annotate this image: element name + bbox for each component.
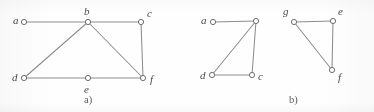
panel-caption-0: a) (84, 95, 92, 106)
graph-vertex-d (21, 75, 26, 80)
graph-edge-g2-f2 (294, 22, 332, 70)
vertex-label-a2: a (201, 15, 207, 26)
graph-vertex-g2 (291, 19, 296, 24)
vertex-label-f: f (150, 74, 153, 85)
graph-edge-c-f (141, 22, 143, 78)
graph-figure-canvas (0, 0, 374, 112)
graph-vertex-e (85, 75, 90, 80)
graph-vertex-b (85, 19, 90, 24)
vertex-label-b: b (84, 6, 90, 17)
vertex-label-e2: e (338, 6, 343, 17)
graph-edge-g2-e2 (294, 21, 333, 22)
graph-vertex-b2 (253, 18, 258, 23)
vertex-label-f2: f (338, 72, 341, 83)
vertices-layer (21, 18, 335, 80)
graph-edge-e2-f2 (332, 21, 333, 70)
vertex-label-c: c (147, 8, 152, 19)
vertex-label-d: d (12, 72, 18, 83)
graph-vertex-e2 (330, 18, 335, 23)
graph-vertex-a2 (210, 19, 215, 24)
graph-vertex-f2 (329, 67, 334, 72)
graph-vertex-c (138, 19, 143, 24)
vertex-label-g2: g (283, 6, 289, 17)
graph-vertex-a (21, 19, 26, 24)
graph-edge-b2-d2 (212, 21, 256, 75)
graph-edge-b2-c2 (252, 21, 256, 75)
graph-edge-b-f (88, 22, 143, 78)
panel-caption-1: b) (289, 95, 298, 106)
graph-vertex-f (140, 75, 145, 80)
figure-root: abcdefa)adcgefb) (0, 0, 374, 112)
graph-edge-b-d (24, 22, 88, 78)
graph-edge-a2-b2 (213, 21, 256, 22)
graph-vertex-d2 (209, 72, 214, 77)
vertex-label-c2: c (258, 71, 263, 82)
edges-layer (24, 21, 333, 78)
graph-vertex-c2 (249, 72, 254, 77)
vertex-label-d2: d (200, 70, 206, 81)
vertex-label-a: a (13, 15, 19, 26)
